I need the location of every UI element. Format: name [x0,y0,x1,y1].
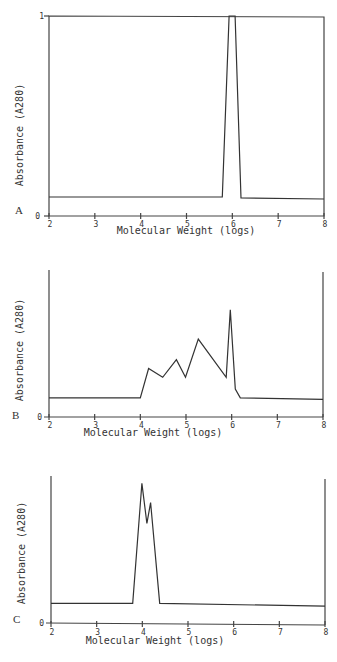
xtick-label: 2 [48,421,53,430]
panel-a-axes-box [49,16,324,216]
panel-c: 0 2345678 Molecular Weight (logs) Absorb… [13,476,329,646]
figure: 0 1 2345678 Molecular Weight (logs) Abso… [0,0,337,662]
panel-a-label: A [15,204,23,216]
panel-b-ylabel: Absorbance (A280) [14,299,25,401]
panel-c-curve [51,483,325,606]
panel-c-xlabel: Molecular Weight (logs) [86,635,224,646]
panel-a-ytick-1: 1 [39,12,44,21]
xtick-label: 7 [277,220,282,229]
panel-a-ylabel: Absorbance (A280) [14,84,25,186]
panel-b: 0 2345678 Molecular Weight (logs) Absorb… [12,270,327,438]
panel-b-xlabel: Molecular Weight (logs) [84,427,222,438]
panel-b-label: B [12,409,19,421]
panel-a-curve [49,16,324,199]
panel-c-ylabel: Absorbance (A280) [16,502,27,604]
panel-c-ytick-0: 0 [39,619,44,628]
xtick-label: 6 [230,421,235,430]
xtick-label: 2 [50,628,55,637]
panel-b-curve [49,310,323,400]
panel-b-ytick-0: 0 [37,413,42,422]
panel-c-label: C [13,613,20,625]
xtick-label: 8 [324,628,329,637]
panel-a: 0 1 2345678 Molecular Weight (logs) Abso… [14,12,328,236]
xtick-label: 8 [322,421,327,430]
xtick-label: 6 [232,628,237,637]
xtick-label: 3 [93,220,98,229]
xtick-label: 7 [276,421,281,430]
xtick-label: 8 [323,220,328,229]
panel-a-xlabel: Molecular Weight (logs) [117,225,255,236]
xtick-label: 7 [278,628,283,637]
panel-a-ytick-0: 0 [35,212,40,221]
xtick-label: 2 [48,220,53,229]
panel-c-x-axis [46,623,325,625]
